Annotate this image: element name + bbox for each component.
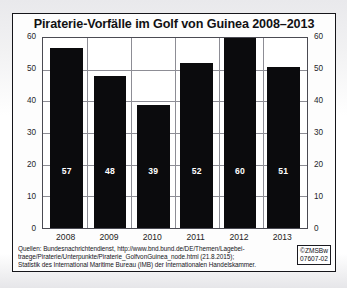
y-tick-left-20: 20 <box>15 161 39 169</box>
bar-2013[interactable]: 51 <box>267 67 300 229</box>
source-line-3: Statistik des International Maritime Bur… <box>18 261 295 269</box>
y-axis-left: 60 50 40 30 20 10 0 <box>15 37 39 229</box>
bar-slot-2009: 48 <box>88 38 131 228</box>
x-tick-2010: 2010 <box>131 231 174 244</box>
chart-plot-area: 60 50 40 30 20 10 0 60 50 40 30 20 10 0 <box>13 37 337 229</box>
copyright-stamp: ©ZMSBw 07607-02 <box>297 245 331 265</box>
bar-value-2012: 60 <box>224 166 257 176</box>
bar-slot-2012: 60 <box>218 38 261 228</box>
bar-slot-2013: 51 <box>262 38 305 228</box>
source-line-1: Quellen: Bundesnachrichtendienst, http:/… <box>18 245 295 253</box>
y-tick-left-30: 30 <box>15 129 39 137</box>
bar-slot-2010: 39 <box>132 38 175 228</box>
y-tick-right-40: 40 <box>311 97 335 105</box>
source-line-2: traege/Piraterie/Unterpunkte/Piraterie_G… <box>18 253 295 261</box>
bar-value-2013: 51 <box>267 166 300 176</box>
source-text: Quellen: Bundesnachrichtendienst, http:/… <box>17 245 295 269</box>
bar-slot-2008: 57 <box>45 38 88 228</box>
bar-slot-2011: 52 <box>175 38 218 228</box>
stamp-number: 07607-02 <box>300 255 328 263</box>
bar-series: 574839526051 <box>43 38 307 228</box>
plot-frame: 574839526051 <box>42 37 308 229</box>
y-tick-left-40: 40 <box>15 97 39 105</box>
bar-value-2011: 52 <box>180 166 213 176</box>
y-axis-right: 60 50 40 30 20 10 0 <box>311 37 335 229</box>
x-tick-2013: 2013 <box>261 231 304 244</box>
bar-value-2010: 39 <box>137 166 170 176</box>
bar-value-2009: 48 <box>94 166 127 176</box>
y-tick-left-60: 60 <box>15 33 39 41</box>
y-tick-right-0: 0 <box>311 225 335 233</box>
x-tick-2012: 2012 <box>217 231 260 244</box>
bar-value-2008: 57 <box>50 166 83 176</box>
bar-2009[interactable]: 48 <box>94 76 127 228</box>
source-block: Quellen: Bundesnachrichtendienst, http:/… <box>17 245 331 271</box>
x-axis-labels: 200820092010201120122013 <box>42 231 306 244</box>
y-tick-right-10: 10 <box>311 193 335 201</box>
y-tick-right-60: 60 <box>311 33 335 41</box>
bar-2010[interactable]: 39 <box>137 105 170 229</box>
y-tick-left-0: 0 <box>15 225 39 233</box>
y-tick-left-10: 10 <box>15 193 39 201</box>
bar-2008[interactable]: 57 <box>50 48 83 229</box>
y-tick-right-30: 30 <box>311 129 335 137</box>
y-tick-left-50: 50 <box>15 65 39 73</box>
x-tick-2009: 2009 <box>87 231 130 244</box>
bar-2011[interactable]: 52 <box>180 63 213 228</box>
chart-figure: Piraterie-Vorfälle im Golf von Guinea 20… <box>12 13 336 272</box>
stamp-publisher: ©ZMSBw <box>300 247 328 255</box>
x-tick-2008: 2008 <box>44 231 87 244</box>
y-tick-right-20: 20 <box>311 161 335 169</box>
page-background: Piraterie-Vorfälle im Golf von Guinea 20… <box>0 0 347 288</box>
y-tick-right-50: 50 <box>311 65 335 73</box>
x-tick-2011: 2011 <box>174 231 217 244</box>
bar-2012[interactable]: 60 <box>224 38 257 228</box>
chart-title: Piraterie-Vorfälle im Golf von Guinea 20… <box>13 17 335 31</box>
